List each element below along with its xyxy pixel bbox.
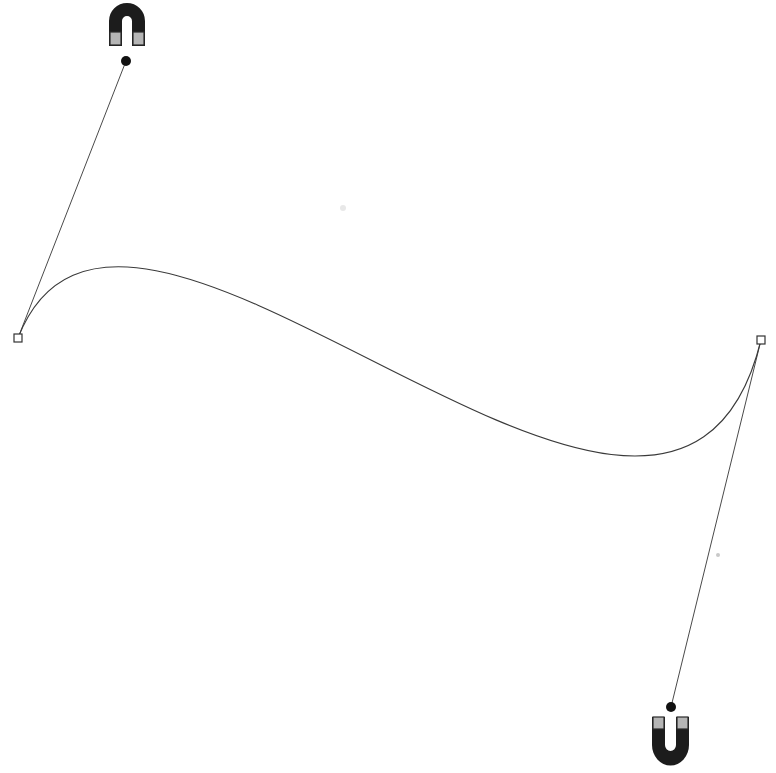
faint-mark-1 xyxy=(340,205,346,211)
vector-editor-canvas[interactable] xyxy=(0,0,776,773)
start-anchor-handle[interactable] xyxy=(14,334,22,342)
faint-mark-2 xyxy=(716,553,720,557)
end-anchor-handle[interactable] xyxy=(757,336,765,344)
vector-drawing-surface[interactable] xyxy=(0,0,776,773)
canvas-background xyxy=(0,0,776,773)
control-point-dot-start[interactable] xyxy=(121,56,131,66)
control-point-dot-end[interactable] xyxy=(666,702,676,712)
